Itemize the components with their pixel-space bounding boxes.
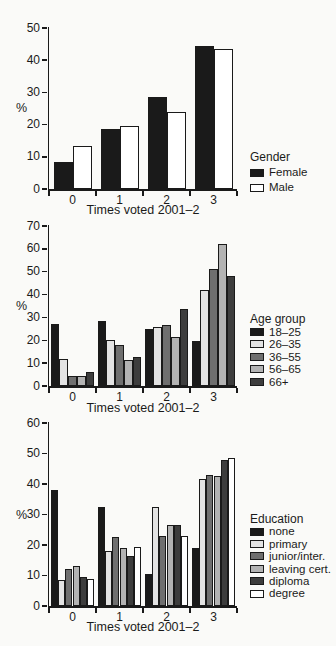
legend-swatch: [250, 528, 264, 536]
legend-swatch: [250, 540, 264, 548]
plot-area: 010203040500123: [49, 28, 237, 189]
y-tick: [42, 575, 47, 577]
bar-male-x2: [167, 112, 186, 189]
bar-18-25-x1: [98, 321, 107, 386]
legend-item-primary: primary: [250, 538, 331, 550]
plot-area: 0102030405060700123: [49, 226, 237, 386]
legend-item-junior-inter-: junior/inter.: [250, 550, 331, 562]
bar-female-x3: [195, 46, 214, 189]
bar-primary-x0: [58, 580, 65, 606]
legend-swatch: [250, 577, 264, 585]
bar-primary-x3: [199, 479, 206, 606]
bar-66+-x2: [180, 309, 189, 386]
education-chart: % 01020304050600123 Times voted 2001–2 E…: [0, 415, 336, 646]
legend-swatch: [250, 552, 264, 560]
y-tick: [42, 483, 47, 485]
y-tick-label: 40: [12, 478, 40, 491]
bar-degree-x0: [87, 579, 94, 606]
y-tick-label: 0: [12, 380, 40, 393]
legend-item-36-55: 36–55: [250, 351, 305, 364]
legend-item-degree: degree: [250, 587, 331, 599]
bar-male-x3: [214, 49, 233, 189]
legend-title: Gender: [250, 150, 307, 165]
y-tick-label: 20: [12, 539, 40, 552]
legend-label: 56–65: [269, 363, 301, 376]
legend-label: Male: [269, 180, 294, 195]
y-tick-label: 30: [12, 311, 40, 324]
y-axis-label: %: [16, 101, 27, 115]
bar-36-55-x0: [68, 376, 77, 386]
bar-female-x0: [54, 162, 73, 189]
y-tick: [42, 27, 47, 29]
bar-36-55-x2: [162, 325, 171, 386]
legend-label: 18–25: [269, 326, 301, 339]
y-axis-line: [48, 27, 50, 191]
legend-swatch: [250, 565, 264, 573]
bar-26-35-x3: [200, 290, 209, 386]
legend-item-66+: 66+: [250, 376, 305, 389]
bar-26-35-x2: [153, 327, 162, 386]
legend-label: Female: [269, 165, 307, 180]
y-tick: [42, 225, 47, 227]
y-tick: [42, 362, 47, 364]
legend-item-26-35: 26–35: [250, 338, 305, 351]
y-tick: [42, 59, 47, 61]
bar-56-65-x2: [171, 337, 180, 386]
legend-label: 36–55: [269, 351, 301, 364]
legend-swatch: [250, 184, 264, 192]
y-tick: [42, 248, 47, 250]
legend-item-male: Male: [250, 180, 307, 195]
bar-66+-x1: [133, 357, 142, 386]
y-tick: [42, 514, 47, 516]
legend-title: Age group: [250, 313, 305, 326]
gender-chart: % 010203040500123 Times voted 2001–2 Gen…: [0, 0, 336, 215]
y-tick: [42, 453, 47, 455]
bar-diploma-x1: [127, 556, 134, 606]
y-tick-label: 0: [12, 600, 40, 613]
legend-item-18-25: 18–25: [250, 326, 305, 339]
voting-barcharts-figure: % 010203040500123 Times voted 2001–2 Gen…: [0, 0, 336, 646]
bar-leaving-cert--x3: [214, 476, 221, 606]
legend-label: degree: [269, 587, 305, 599]
age-group-chart: % 0102030405060700123 Times voted 2001–2…: [0, 215, 336, 415]
bar-male-x0: [73, 146, 92, 189]
y-tick-label: 60: [12, 417, 40, 430]
y-tick-label: 50: [12, 265, 40, 278]
y-axis-line: [48, 422, 50, 608]
y-tick-label: 20: [12, 334, 40, 347]
y-tick: [42, 124, 47, 126]
bar-primary-x1: [105, 551, 112, 606]
y-tick-label: 10: [12, 569, 40, 582]
bar-degree-x3: [228, 458, 235, 606]
gender-legend: Gender FemaleMale: [250, 150, 307, 195]
y-tick: [42, 605, 47, 607]
y-tick-label: 40: [12, 288, 40, 301]
bar-junior-inter--x0: [65, 569, 72, 606]
y-tick: [42, 294, 47, 296]
bar-none-x3: [192, 548, 199, 606]
bar-56-65-x3: [218, 244, 227, 386]
bar-26-35-x1: [106, 340, 115, 386]
bar-primary-x2: [152, 507, 159, 606]
y-tick-label: 20: [12, 118, 40, 131]
y-tick: [42, 156, 47, 158]
education-legend: Education noneprimaryjunior/inter.leavin…: [250, 513, 331, 600]
y-axis-line: [48, 225, 50, 388]
bar-18-25-x2: [145, 329, 154, 386]
y-tick: [42, 188, 47, 190]
y-tick: [42, 544, 47, 546]
legend-label: leaving cert.: [269, 563, 331, 575]
bar-leaving-cert--x0: [73, 566, 80, 606]
y-tick: [42, 340, 47, 342]
legend-item-female: Female: [250, 165, 307, 180]
y-tick-label: 50: [12, 447, 40, 460]
legend-item-leaving-cert-: leaving cert.: [250, 563, 331, 575]
bar-26-35-x0: [59, 359, 68, 386]
legend-swatch: [250, 365, 264, 373]
bar-diploma-x0: [80, 577, 87, 606]
bar-degree-x2: [181, 536, 188, 606]
y-tick-label: 10: [12, 150, 40, 163]
legend-swatch: [250, 590, 264, 598]
y-tick: [42, 271, 47, 273]
y-tick-label: 30: [12, 508, 40, 521]
